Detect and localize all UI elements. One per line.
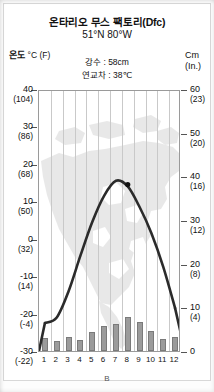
temperature-tick-fahrenheit: (68) bbox=[0, 169, 33, 179]
temperature-axis-tick-label: -20(-4) bbox=[0, 309, 33, 329]
precipitation-tick-cm: 0 bbox=[190, 346, 195, 356]
temperature-tick-fahrenheit: (50) bbox=[0, 206, 33, 216]
precipitation-axis-tick bbox=[181, 265, 187, 266]
temperature-tick-celsius: 10 bbox=[23, 196, 33, 206]
temperature-tick-fahrenheit: (104) bbox=[0, 94, 33, 104]
precipitation-axis-tick-label: 20(8) bbox=[190, 259, 214, 279]
month-label: 5 bbox=[85, 355, 97, 364]
precipitation-axis-tick bbox=[181, 90, 187, 91]
precipitation-tick-inches: (8) bbox=[190, 269, 214, 279]
month-label: 7 bbox=[109, 355, 121, 364]
precipitation-tick-inches: (20) bbox=[190, 138, 214, 148]
precipitation-tick-cm: 50 bbox=[190, 128, 200, 138]
temperature-tick-fahrenheit: (32) bbox=[0, 244, 33, 254]
temperature-axis-tick-label: 10(50) bbox=[0, 196, 33, 216]
page-title: 온타리오 무스 팩토리(Dfc) bbox=[0, 14, 214, 29]
climograph-figure: 온타리오 무스 팩토리(Dfc) 51°N 80°W 강수 : 58cm 연교차… bbox=[0, 0, 214, 392]
precipitation-tick-inches: (16) bbox=[190, 181, 214, 191]
precipitation-tick-cm: 20 bbox=[190, 259, 200, 269]
temperature-axis-tick-label: 40(104) bbox=[0, 84, 33, 104]
precipitation-axis-tick bbox=[181, 221, 187, 222]
precipitation-axis-tick bbox=[181, 134, 187, 135]
annual-temperature-range-note: 연교차 : 38℃ bbox=[0, 68, 214, 80]
temperature-tick-fahrenheit: (-22) bbox=[0, 356, 33, 366]
precipitation-axis-tick-label: 50(20) bbox=[190, 128, 214, 148]
location-dot-marker bbox=[39, 91, 180, 352]
temperature-axis-tick-label: 20(68) bbox=[0, 159, 33, 179]
precipitation-tick-cm: 40 bbox=[190, 171, 200, 181]
precipitation-axis-tick-label: 0 bbox=[190, 346, 214, 356]
precipitation-axis-tick bbox=[181, 177, 187, 178]
temperature-tick-fahrenheit: (-4) bbox=[0, 319, 33, 329]
month-label: 11 bbox=[156, 355, 168, 364]
location-dot bbox=[125, 182, 130, 187]
precipitation-axis-tick-label: 60(23) bbox=[190, 84, 214, 104]
precipitation-tick-cm: 10 bbox=[190, 302, 200, 312]
month-label: 3 bbox=[62, 355, 74, 364]
temperature-tick-celsius: -10 bbox=[20, 271, 33, 281]
temperature-tick-celsius: 20 bbox=[23, 159, 33, 169]
temperature-tick-celsius: 40 bbox=[23, 84, 33, 94]
plot-area bbox=[38, 90, 180, 352]
precipitation-axis-tick-label: 30(12) bbox=[190, 215, 214, 235]
figure-letter-label: B bbox=[0, 374, 214, 383]
temperature-axis-tick-label: 0(32) bbox=[0, 234, 33, 254]
precipitation-tick-cm: 60 bbox=[190, 84, 200, 94]
temperature-tick-celsius: -20 bbox=[20, 309, 33, 319]
temperature-axis-caption-units: °C (F) bbox=[28, 50, 51, 60]
month-axis-labels: 123456789101112 bbox=[38, 355, 180, 367]
month-label: 4 bbox=[74, 355, 86, 364]
temperature-axis-caption-main: 온도 bbox=[9, 50, 25, 60]
month-label: 10 bbox=[145, 355, 157, 364]
temperature-tick-celsius: 0 bbox=[28, 234, 33, 244]
precipitation-axis-caption-main: Cm bbox=[185, 50, 199, 60]
precipitation-axis-caption: Cm (In.) bbox=[185, 50, 214, 72]
precipitation-axis-tick bbox=[181, 308, 187, 309]
month-label: 6 bbox=[97, 355, 109, 364]
month-label: 8 bbox=[121, 355, 133, 364]
temperature-axis-caption: 온도 °C (F) bbox=[9, 50, 51, 61]
temperature-axis-tick-label: -10(14) bbox=[0, 271, 33, 291]
precipitation-axis-caption-units: (In.) bbox=[185, 61, 201, 71]
precipitation-tick-inches: (23) bbox=[190, 94, 214, 104]
temperature-tick-celsius: 30 bbox=[23, 121, 33, 131]
precipitation-tick-cm: 30 bbox=[190, 215, 200, 225]
precipitation-axis-tick bbox=[181, 352, 187, 353]
precipitation-tick-inches: (4) bbox=[190, 312, 214, 322]
coordinates-label: 51°N 80°W bbox=[0, 29, 214, 40]
temperature-tick-fahrenheit: (86) bbox=[0, 131, 33, 141]
temperature-tick-fahrenheit: (14) bbox=[0, 281, 33, 291]
month-label: 1 bbox=[38, 355, 50, 364]
temperature-tick-celsius: -30 bbox=[20, 346, 33, 356]
precipitation-tick-inches: (12) bbox=[190, 225, 214, 235]
precipitation-axis-tick-label: 40(16) bbox=[190, 171, 214, 191]
month-label: 2 bbox=[50, 355, 62, 364]
temperature-axis-tick-label: -30(-22) bbox=[0, 346, 33, 366]
temperature-axis-tick-label: 30(86) bbox=[0, 121, 33, 141]
month-label: 9 bbox=[133, 355, 145, 364]
month-label: 12 bbox=[168, 355, 180, 364]
precipitation-axis-tick-label: 10(4) bbox=[190, 302, 214, 322]
